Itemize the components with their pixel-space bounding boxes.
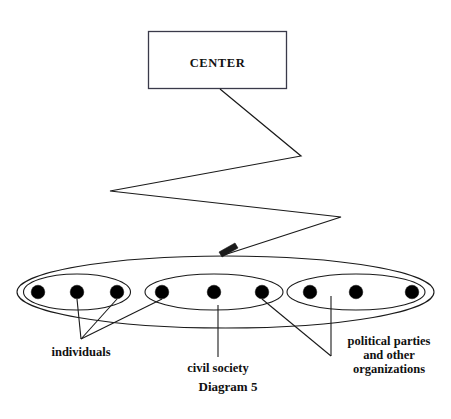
zigzag-polyline [110,89,341,255]
civil-society-dot [255,285,269,299]
civil-society-dot [155,285,169,299]
zigzag-arrowhead [219,243,238,257]
diagram-figure: CENTER [0,0,451,419]
organizations-dot [303,285,317,299]
figure-caption: Diagram 5 [199,379,258,394]
label-organizations-line3: organizations [353,362,425,376]
organizations-dot [349,285,363,299]
diagram-canvas: CENTER [0,0,451,419]
leader-line-individuals [81,299,162,339]
label-organizations-line1: political parties [348,334,431,348]
individuals-dot [70,285,84,299]
center-box: CENTER [149,32,287,89]
leader-line-individuals [77,299,81,339]
center-to-society-zigzag [110,89,341,257]
label-civil-society: civil society [187,361,249,375]
organizations-dot [405,285,419,299]
civil-society-group [145,274,283,310]
civil-society-dot [207,285,221,299]
individuals-dot [110,285,124,299]
organizations-group [287,274,425,310]
label-organizations-line2: and other [363,348,415,362]
center-box-label: CENTER [190,56,246,70]
label-individuals: individuals [51,345,110,359]
individuals-dot [31,285,45,299]
individuals-group [24,274,131,310]
